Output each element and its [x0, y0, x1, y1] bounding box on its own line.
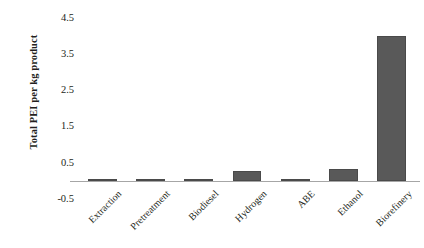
y-axis-tick-label: 2.5 — [40, 85, 74, 96]
bar-ethanol — [329, 169, 358, 181]
bar-slot — [175, 10, 223, 181]
bar-chart: Total PEI per kg product 4.53.52.51.50.5… — [0, 0, 424, 248]
bar-slot — [78, 10, 126, 181]
zero-baseline-axis — [70, 181, 420, 182]
y-axis-tick-label: 4.5 — [40, 13, 74, 24]
bar-slot — [271, 10, 319, 181]
x-axis-label-pretreatment: Pretreatment — [128, 188, 172, 232]
plot-area — [78, 10, 416, 182]
x-axis-label-biodiesel: Biodiesel — [186, 188, 220, 222]
bar-hydrogen — [233, 171, 262, 181]
bar-biorefinery — [377, 36, 406, 181]
x-axis-category-labels: ExtractionPretreatmentBiodieselHydrogenA… — [78, 184, 416, 248]
y-axis-tick-label: 3.5 — [40, 49, 74, 60]
y-axis-tick-label: 1.5 — [40, 121, 74, 132]
x-axis-label-hydrogen: Hydrogen — [233, 188, 269, 224]
y-axis-tick-label: 0.5 — [40, 158, 74, 169]
x-axis-label-ethanol: Ethanol — [336, 188, 366, 218]
y-axis-tick-labels: 4.53.52.51.50.5-0.5 — [40, 0, 74, 248]
x-axis-label-extraction: Extraction — [87, 188, 124, 225]
bars-layer — [78, 10, 416, 181]
x-axis-label-abe: ABE — [295, 188, 317, 210]
x-axis-label-biorefinery: Biorefinery — [373, 188, 413, 228]
bar-slot — [319, 10, 367, 181]
bar-slot — [368, 10, 416, 181]
bar-slot — [126, 10, 174, 181]
y-axis-tick-label: -0.5 — [40, 194, 74, 205]
bar-slot — [223, 10, 271, 181]
